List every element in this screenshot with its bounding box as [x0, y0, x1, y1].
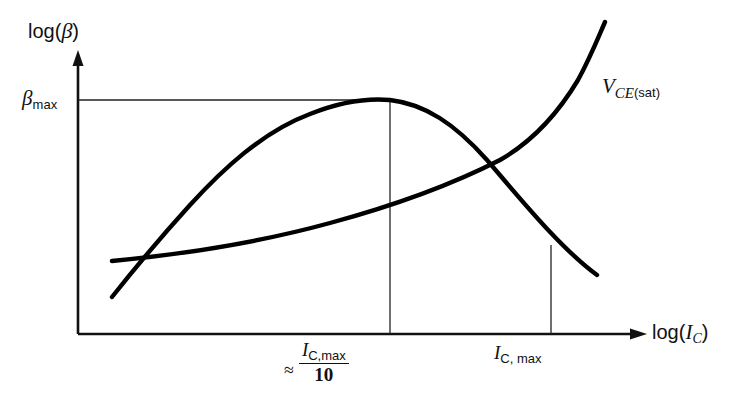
vce-sat-curve-label: VCE(sat): [602, 76, 660, 101]
beta-curve: [112, 100, 597, 297]
figure-container: log(β) βmax log(IC) VCE(sat) ≈ IC,max 10…: [0, 0, 737, 395]
ic-max-subscript: C, max: [500, 351, 541, 366]
vce-sat-curve: [112, 22, 605, 261]
fraction-numerator-subscript: C,max: [308, 348, 346, 363]
x-axis-label-var-subscript: C: [692, 331, 701, 346]
beta-max-subscript: max: [32, 97, 57, 112]
x-tick-annotation-ic-max-over-ten: ≈ IC,max 10: [284, 340, 349, 384]
y-axis-label-fn: log: [28, 20, 55, 42]
approx-symbol: ≈: [284, 361, 294, 379]
fraction-denominator: 10: [314, 364, 333, 384]
vce-sat-label-subscript: CE: [615, 85, 634, 101]
vce-sat-label-sat: (sat): [634, 85, 660, 100]
axes-group: [73, 50, 648, 340]
y-axis-label-var: β: [61, 18, 72, 43]
beta-max-base: β: [22, 86, 32, 110]
beta-max-tick-label: βmax: [22, 88, 57, 111]
y-axis-label: log(β): [28, 20, 79, 42]
vce-sat-label-base: V: [602, 74, 615, 98]
x-axis-label: log(IC): [652, 322, 708, 346]
y-axis-arrowhead: [73, 50, 84, 66]
x-tick-annotation-ic-max: IC, max: [494, 343, 542, 365]
x-axis-label-fn: log: [652, 321, 679, 343]
fraction-numerator: IC,max: [299, 340, 349, 363]
y-axis-label-close: ): [72, 20, 79, 42]
x-axis-label-close: ): [702, 321, 709, 343]
fraction: IC,max 10: [299, 340, 349, 384]
reference-lines-group: [78, 100, 551, 334]
chart-plot-area: [0, 0, 737, 395]
x-axis-arrowhead: [630, 329, 647, 340]
